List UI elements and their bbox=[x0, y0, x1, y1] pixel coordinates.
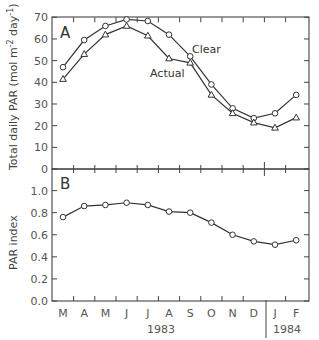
year-1983-label: 1983 bbox=[147, 323, 175, 336]
panel-b-x-axis: MAMJJASONDJF bbox=[58, 296, 299, 320]
circle-marker bbox=[60, 64, 66, 70]
panel-a-y-axis-label: Total daily PAR (mol m-2 day-1) bbox=[6, 3, 20, 171]
circle-marker bbox=[272, 111, 278, 117]
y-tick-label: 0.2 bbox=[31, 273, 49, 286]
panel-b-y-axis: 0.00.20.40.60.81.0 bbox=[31, 185, 310, 308]
x-tick-label: M bbox=[58, 307, 68, 320]
y-tick-label: 50 bbox=[34, 55, 48, 68]
panel-b-y-axis-label: PAR index bbox=[7, 215, 20, 270]
circle-marker bbox=[209, 82, 215, 88]
y-tick-label: 0.8 bbox=[31, 207, 49, 220]
panel-b-frame bbox=[52, 169, 309, 301]
x-tick-label: J bbox=[272, 307, 276, 320]
x-tick-label: A bbox=[165, 307, 173, 320]
y-tick-label: 0.0 bbox=[31, 295, 49, 308]
y-tick-label: 0.4 bbox=[31, 251, 49, 264]
x-tick-label: N bbox=[228, 307, 236, 320]
y-tick-label: 1.0 bbox=[31, 185, 49, 198]
par-chart: 010203040506070 A Clear Actual Total dai… bbox=[0, 0, 319, 340]
circle-marker bbox=[145, 202, 151, 208]
circle-marker bbox=[81, 37, 87, 43]
triangle-marker bbox=[293, 114, 300, 120]
panel-b: 0.00.20.40.60.81.0 MAMJJASONDJF B PAR in… bbox=[7, 169, 309, 338]
circle-marker bbox=[124, 200, 130, 206]
y-tick-label: 40 bbox=[34, 76, 48, 89]
panel-b-series bbox=[60, 200, 299, 248]
triangle-marker bbox=[123, 22, 130, 28]
circle-marker bbox=[187, 210, 193, 216]
circle-marker bbox=[103, 202, 109, 208]
par-index-line bbox=[63, 203, 296, 245]
panel-a-letter: A bbox=[60, 24, 71, 42]
y-tick-label: 30 bbox=[34, 98, 48, 111]
circle-marker bbox=[145, 18, 151, 24]
circle-marker bbox=[209, 220, 215, 226]
x-tick-label: D bbox=[250, 307, 258, 320]
y-tick-label: 60 bbox=[34, 33, 48, 46]
y-tick-label: 0 bbox=[41, 163, 48, 176]
y-tick-label: 70 bbox=[34, 11, 48, 24]
panel-a: 010203040506070 A Clear Actual Total dai… bbox=[6, 3, 309, 176]
panel-b-letter: B bbox=[60, 175, 70, 193]
x-tick-label: F bbox=[293, 307, 299, 320]
circle-marker bbox=[251, 239, 257, 245]
circle-marker bbox=[60, 214, 66, 220]
x-tick-label: A bbox=[80, 307, 88, 320]
year-1984-label: 1984 bbox=[273, 323, 301, 336]
circle-marker bbox=[230, 232, 236, 238]
circle-marker bbox=[81, 203, 87, 209]
circle-marker bbox=[124, 17, 130, 23]
circle-marker bbox=[293, 237, 299, 243]
circle-marker bbox=[166, 209, 172, 215]
circle-marker bbox=[166, 32, 172, 38]
y-tick-label: 20 bbox=[34, 120, 48, 133]
circle-marker bbox=[272, 242, 278, 248]
panel-a-frame bbox=[52, 17, 309, 169]
y-tick-label: 10 bbox=[34, 141, 48, 154]
x-tick-label: J bbox=[145, 307, 149, 320]
x-tick-label: J bbox=[124, 307, 128, 320]
actual-series-label: Actual bbox=[150, 67, 184, 80]
x-tick-label: O bbox=[207, 307, 216, 320]
clear-series-label: Clear bbox=[192, 43, 221, 56]
x-tick-label: M bbox=[101, 307, 111, 320]
y-tick-label: 0.6 bbox=[31, 229, 49, 242]
panel-a-x-ticks bbox=[74, 17, 286, 176]
circle-marker bbox=[293, 92, 299, 98]
x-tick-label: S bbox=[187, 307, 194, 320]
circle-marker bbox=[103, 23, 109, 29]
